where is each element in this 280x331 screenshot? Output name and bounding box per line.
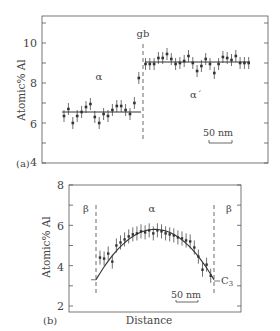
data-point xyxy=(192,62,195,65)
panel-b-ylabel: Atomic% Al xyxy=(40,216,52,279)
data-point xyxy=(183,60,186,63)
data-point xyxy=(209,63,212,66)
data-point xyxy=(189,240,191,242)
panel-b-ytick-6: 6 xyxy=(57,220,64,233)
data-point xyxy=(111,109,114,112)
data-point xyxy=(123,238,125,240)
data-point xyxy=(80,111,83,114)
data-point xyxy=(235,55,238,58)
data-point xyxy=(161,57,164,60)
data-point xyxy=(98,122,101,125)
data-point xyxy=(156,229,158,231)
data-point xyxy=(128,235,130,237)
data-point xyxy=(152,232,154,234)
data-point xyxy=(213,72,216,75)
fit-curve xyxy=(96,229,214,279)
data-point xyxy=(67,108,70,111)
data-point xyxy=(72,122,75,125)
data-point xyxy=(136,232,138,234)
panel-a-label: (a) xyxy=(16,158,30,169)
data-point xyxy=(200,65,203,68)
data-point xyxy=(63,115,66,118)
panel-a-frame xyxy=(42,16,268,163)
data-point xyxy=(111,260,113,262)
panel-b-scale-bar xyxy=(176,300,198,302)
data-point xyxy=(115,244,117,246)
alpha-label: α xyxy=(96,71,103,82)
data-point xyxy=(89,103,92,106)
data-point xyxy=(160,230,162,232)
c3-label: C3 xyxy=(221,275,233,288)
data-point xyxy=(164,232,166,234)
panel-b-data-points xyxy=(91,223,214,283)
data-point xyxy=(99,256,101,258)
figure: 10 8 6 4 Atomic% Al (a) gb α α´ 50 nm 8 … xyxy=(0,0,280,331)
data-point xyxy=(124,109,127,112)
panel-a-ytick-8: 8 xyxy=(30,77,37,90)
data-point xyxy=(149,63,152,66)
data-point xyxy=(157,57,160,60)
data-point xyxy=(107,252,109,254)
data-point xyxy=(120,105,123,108)
data-point xyxy=(85,106,88,109)
panel-b-xlabel: Distance xyxy=(126,314,173,326)
data-point xyxy=(185,239,187,241)
data-point xyxy=(94,116,97,119)
data-point xyxy=(217,63,220,66)
data-point xyxy=(140,230,142,232)
panel-a-scale-bar xyxy=(209,140,232,143)
data-point xyxy=(201,268,203,270)
panel-b-scale-label: 50 nm xyxy=(171,289,201,300)
gb-label: gb xyxy=(137,28,150,39)
data-point xyxy=(153,63,156,66)
data-point xyxy=(210,275,212,277)
data-point xyxy=(247,62,250,65)
data-point xyxy=(205,263,207,265)
data-point xyxy=(196,70,199,73)
data-point xyxy=(230,59,233,62)
beta-left-label: β xyxy=(83,203,89,214)
beta-right-label: β xyxy=(226,203,232,214)
data-point xyxy=(174,63,177,66)
panel-a-ylabel: Atomic% Al xyxy=(15,59,27,122)
panel-b-ytick-8: 8 xyxy=(57,179,64,192)
data-point xyxy=(239,62,242,65)
data-point xyxy=(169,233,171,235)
data-point xyxy=(119,241,121,243)
data-point xyxy=(148,229,150,231)
panel-a-ytick-4: 4 xyxy=(30,156,37,169)
panel-a: 10 8 6 4 Atomic% Al (a) gb α α´ 50 nm xyxy=(15,16,268,169)
data-point xyxy=(144,63,147,66)
data-point xyxy=(177,236,179,238)
panel-a-yticks xyxy=(42,23,268,163)
data-point xyxy=(179,62,182,65)
panel-b-label: (b) xyxy=(43,315,57,326)
data-point xyxy=(226,57,229,60)
data-point xyxy=(107,115,110,118)
data-point xyxy=(243,62,246,65)
data-point xyxy=(102,113,105,116)
panel-b-ytick-4: 4 xyxy=(57,261,64,274)
data-point xyxy=(138,77,141,80)
alpha-prime-label: α´ xyxy=(190,89,202,100)
panel-b-ytick-2: 2 xyxy=(57,300,64,313)
alpha-label-b: α xyxy=(149,203,156,214)
data-point xyxy=(187,55,190,58)
data-point xyxy=(181,237,183,239)
data-point xyxy=(76,115,79,118)
data-point xyxy=(103,257,105,259)
data-point xyxy=(144,231,146,233)
data-point xyxy=(197,255,199,257)
data-point xyxy=(129,113,132,116)
panel-a-scale-label: 50 nm xyxy=(203,127,233,138)
data-point xyxy=(222,56,225,59)
panel-a-ytick-6: 6 xyxy=(30,118,37,131)
panel-a-ytick-10: 10 xyxy=(23,37,37,50)
data-point xyxy=(193,246,195,248)
data-point xyxy=(133,102,136,105)
data-point xyxy=(132,233,134,235)
panel-a-data-points xyxy=(62,48,250,129)
data-point xyxy=(204,58,207,61)
data-point xyxy=(170,58,173,61)
data-point xyxy=(173,234,175,236)
